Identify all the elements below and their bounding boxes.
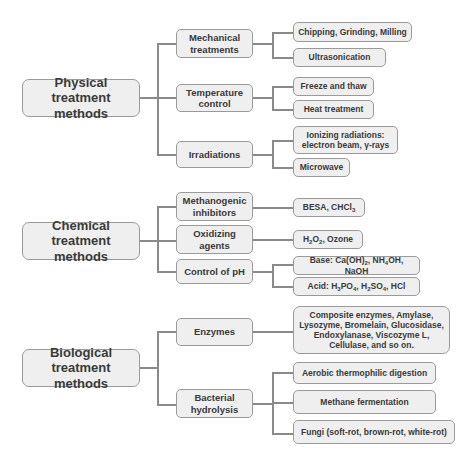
leaf-label: Methane fermentation	[320, 397, 408, 407]
connector	[253, 271, 273, 273]
leaf-label: Lysozyme, Bromelain, Glucosidase,	[299, 320, 444, 330]
leaf-ionizing-radiations: Ionizing radiations:electron beam, γ-ray…	[293, 126, 398, 154]
node-label: Enzymes	[194, 326, 235, 337]
node-label: Irradiations	[189, 149, 241, 160]
connector	[272, 372, 293, 374]
leaf-label: Freeze and thaw	[300, 81, 366, 91]
leaf-composite-enzymes: Composite enzymes, Amylase, Lysozyme, Br…	[293, 306, 450, 354]
node-label: Mechanical	[189, 32, 240, 43]
node-methanogenic-inhibitors: Methanogenicinhibitors	[176, 192, 253, 221]
connector	[140, 97, 158, 99]
leaf-label: Chipping, Grinding, Milling	[298, 27, 407, 37]
connector	[272, 167, 293, 169]
node-label: Chemical	[23, 218, 139, 234]
leaf-label: Aerobic thermophilic digestion	[302, 368, 427, 378]
node-label: Temperature	[186, 87, 243, 98]
leaf-acid: Acid: H3PO4, H2SO4, HCl	[293, 277, 420, 296]
connector	[272, 286, 293, 288]
leaf-base: Base: Ca(OH)2, NH4OH, NaOH	[293, 256, 420, 275]
leaf-label: Composite enzymes, Amylase,	[299, 310, 444, 320]
connector	[272, 264, 274, 287]
node-physical-treatment: Physicaltreatment methods	[22, 79, 140, 117]
leaf-ultrasonication: Ultrasonication	[293, 48, 386, 67]
connector	[272, 264, 293, 266]
node-label: Physical	[23, 75, 139, 91]
leaf-label: H2O2, Ozone	[303, 234, 353, 244]
leaf-aerobic-thermophilic-digestion: Aerobic thermophilic digestion	[293, 362, 436, 384]
node-biological-treatment: Biologicaltreatment methods	[22, 349, 140, 387]
connector	[272, 140, 274, 168]
leaf-freeze-and-thaw: Freeze and thaw	[293, 77, 374, 96]
connector	[253, 207, 293, 209]
connector	[253, 97, 273, 99]
leaf-label: Cellulase, and so on.	[299, 340, 444, 350]
connector	[253, 403, 273, 405]
node-label: treatments	[189, 44, 240, 55]
connector	[157, 271, 176, 273]
node-chemical-treatment: Chemicaltreatment methods	[22, 222, 140, 260]
connector	[272, 402, 293, 404]
connector	[253, 43, 273, 45]
node-label: treatment methods	[23, 360, 139, 391]
connector	[272, 109, 293, 111]
leaf-h2o2-ozone: H2O2, Ozone	[293, 230, 363, 249]
connector	[253, 154, 273, 156]
leaf-label: Fungi (soft-rot, brown-rot, white-rot)	[301, 427, 447, 437]
connector	[157, 404, 176, 406]
node-enzymes: Enzymes	[176, 318, 253, 346]
node-label: Methanogenic	[183, 195, 247, 206]
leaf-besa-chcl3: BESA, CHCl3	[293, 198, 365, 217]
node-label: treatment methods	[23, 90, 139, 121]
leaf-label: Ultrasonication	[309, 52, 371, 62]
connector	[272, 57, 293, 59]
node-label: Bacterial	[191, 392, 239, 403]
connector	[253, 331, 293, 333]
node-label: Oxidizing	[193, 228, 236, 239]
leaf-label: electron beam, γ-rays	[302, 140, 389, 150]
leaf-label: Ionizing radiations:	[302, 130, 389, 140]
node-temperature-control: Temperaturecontrol	[176, 84, 253, 112]
connector	[157, 43, 159, 155]
leaf-label: Base: Ca(OH)2, NH4OH, NaOH	[298, 255, 415, 275]
connector	[272, 86, 274, 110]
node-oxidizing-agents: Oxidizingagents	[176, 225, 253, 254]
connector	[157, 331, 176, 333]
leaf-fungi: Fungi (soft-rot, brown-rot, white-rot)	[293, 420, 455, 444]
connector	[157, 97, 176, 99]
node-bacterial-hydrolysis: Bacterialhydrolysis	[176, 389, 253, 418]
node-control-of-ph: Control of pH	[176, 259, 253, 284]
leaf-label: Acid: H3PO4, H2SO4, HCl	[308, 281, 406, 291]
node-label: control	[186, 98, 243, 109]
node-label: Control of pH	[184, 266, 245, 277]
connector	[157, 206, 159, 272]
leaf-label: Endoxylanase, Viscozyme L,	[299, 330, 444, 340]
node-mechanical-treatments: Mechanicaltreatments	[176, 29, 253, 58]
node-label: Biological	[23, 345, 139, 361]
connector	[272, 86, 293, 88]
leaf-methane-fermentation: Methane fermentation	[293, 390, 436, 414]
connector	[272, 32, 274, 58]
connector	[253, 239, 293, 241]
connector	[272, 433, 293, 435]
leaf-label: BESA, CHCl3	[303, 202, 355, 212]
node-label: hydrolysis	[191, 404, 239, 415]
connector	[140, 367, 158, 369]
connector	[157, 154, 176, 156]
node-irradiations: Irradiations	[176, 141, 253, 168]
leaf-heat-treatment: Heat treatment	[293, 100, 374, 119]
leaf-label: Microwave	[300, 162, 343, 172]
connector	[157, 43, 176, 45]
leaf-label: Heat treatment	[304, 104, 364, 114]
node-label: agents	[193, 240, 236, 251]
connector	[272, 140, 293, 142]
connector	[157, 331, 159, 406]
connector	[157, 206, 176, 208]
connector	[157, 240, 176, 242]
node-label: treatment methods	[23, 233, 139, 264]
node-label: inhibitors	[183, 207, 247, 218]
connector	[272, 32, 293, 34]
leaf-chipping-grinding-milling: Chipping, Grinding, Milling	[293, 22, 412, 42]
leaf-microwave: Microwave	[293, 158, 350, 177]
connector	[140, 240, 158, 242]
